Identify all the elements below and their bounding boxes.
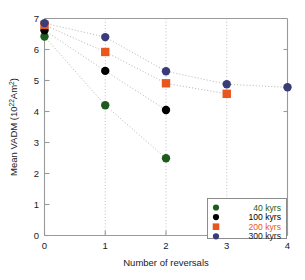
y-tick-label: 3 [34,137,39,148]
x-tick-label: 0 [42,240,47,251]
data-point [223,90,231,98]
y-axis-title-pre: Mean VADM (10 [8,106,19,176]
data-point [162,67,170,75]
legend-label-100-kyrs: 100 kyrs [249,212,281,222]
x-axis-title: Number of reversals [123,257,209,268]
legend-marker-300-kyrs [213,233,219,239]
data-point [162,154,170,162]
x-tick-label: 1 [103,240,108,251]
data-point [283,83,291,91]
legend-label-40-kyrs: 40 kyrs [253,203,281,213]
legend-marker-100-kyrs [213,214,219,220]
x-axis-tick-labels: 0 1 2 3 4 [42,240,290,251]
legend-marker-40-kyrs [213,204,219,210]
x-tick-label: 4 [285,240,290,251]
legend-marker-200-kyrs [213,223,220,230]
data-point [40,19,48,27]
y-tick-label: 5 [34,75,39,86]
y-tick-label: 0 [34,230,39,241]
y-tick-label: 1 [34,199,39,210]
y-tick-label: 4 [34,106,39,117]
y-tick-label: 7 [34,13,39,24]
y-axis-title-post: ) [8,78,19,81]
y-axis-title-mid: Am [8,85,19,99]
data-point [223,80,231,88]
x-tick-label: 2 [163,240,168,251]
legend-label-300-kyrs: 300 kyrs [249,231,281,241]
data-point [162,79,170,87]
data-point [101,67,109,75]
y-tick-label: 2 [34,168,39,179]
y-tick-label: 6 [34,44,39,55]
chart-figure: 0 1 2 3 4 5 6 7 0 1 2 3 4 Number of reve… [0,0,305,280]
data-point [162,106,170,114]
legend-label-200-kyrs: 200 kyrs [249,222,281,232]
vadm-reversals-scatter-plot: 0 1 2 3 4 5 6 7 0 1 2 3 4 Number of reve… [0,0,305,280]
data-point [101,101,109,109]
data-point [101,33,109,41]
trend-lines-layer [45,23,288,158]
x-tick-label: 3 [224,240,229,251]
trend-line-200-kyrs [45,25,227,94]
data-point [101,48,109,56]
y-axis-tick-labels: 0 1 2 3 4 5 6 7 [34,13,39,241]
y-axis-title: Mean VADM (1022Am2) [8,78,20,176]
